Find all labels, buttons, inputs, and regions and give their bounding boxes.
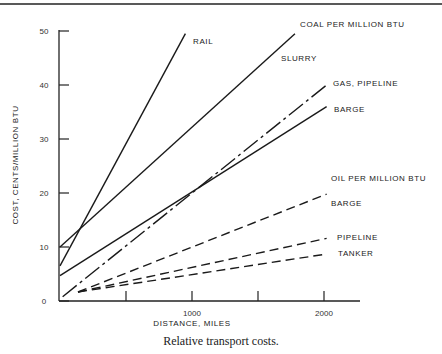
label-oil-barge: BARGE: [331, 199, 362, 208]
label-tanker: TANKER: [338, 249, 373, 258]
x-tick-label: 2000: [315, 309, 333, 318]
x-tick-labels: 10002000: [183, 309, 333, 318]
y-axis-title: COST, CENTS/MILLION BTU: [11, 105, 20, 224]
y-tick-label: 20: [40, 189, 49, 198]
series-line-gas-gas-pipeline: [63, 85, 327, 297]
y-tick-label: 10: [40, 243, 49, 252]
label-oil-pipeline: PIPELINE: [337, 233, 378, 242]
chart: 01020304050 10002000 COST, CENTS/MILLION…: [0, 0, 442, 354]
y-tick-label: 40: [40, 81, 49, 90]
label-gas-pipeline: GAS, PIPELINE: [333, 79, 398, 88]
y-tick-label: 0: [42, 297, 47, 306]
y-tick-label: 30: [40, 135, 49, 144]
label-rail: RAIL: [193, 37, 213, 46]
series-line-oil-barge: [78, 194, 327, 292]
x-axis-title: DISTANCE, MILES: [153, 319, 230, 328]
series-line-coal-slurry: [60, 34, 295, 247]
series-line-oil-tanker: [78, 254, 327, 292]
label-slurry: SLURRY: [281, 54, 317, 63]
axes: [59, 30, 360, 301]
y-tick-label: 50: [40, 27, 49, 36]
label-oil-header: OIL PER MILLION BTU: [331, 174, 426, 183]
label-coal-header: COAL PER MILLION BTU: [300, 20, 405, 29]
label-coal-barge: BARGE: [334, 105, 365, 114]
figure-caption: Relative transport costs.: [0, 334, 442, 349]
x-ticks: [126, 291, 324, 301]
y-ticks: [59, 31, 69, 301]
series-lines: [60, 34, 327, 297]
y-tick-labels: 01020304050: [40, 27, 49, 306]
x-tick-label: 1000: [183, 309, 201, 318]
series-line-oil-pipeline: [78, 238, 327, 292]
